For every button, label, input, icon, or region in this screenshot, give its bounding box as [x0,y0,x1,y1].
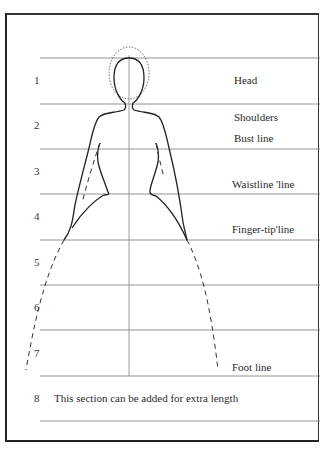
section-number-1: 1 [34,74,40,86]
section-number-6: 6 [34,301,40,313]
section-number-8: 8 [34,392,40,404]
label-fingertip: Finger-tip'line [232,223,294,235]
section-number-5: 5 [34,256,40,268]
label-foot: Foot line [232,361,271,373]
section-number-2: 2 [34,119,40,131]
section-number-7: 7 [34,347,40,359]
label-head: Head [234,74,257,86]
skirt-dashed [26,143,218,370]
label-bust: Bust line [234,132,273,144]
section-number-3: 3 [34,165,40,177]
extra-length-note: This section can be added for extra leng… [54,392,238,404]
section-lines [40,58,320,421]
section-number-4: 4 [34,210,40,222]
label-shoulders: Shoulders [234,111,278,123]
label-waist: Waistline 'line [232,178,295,190]
